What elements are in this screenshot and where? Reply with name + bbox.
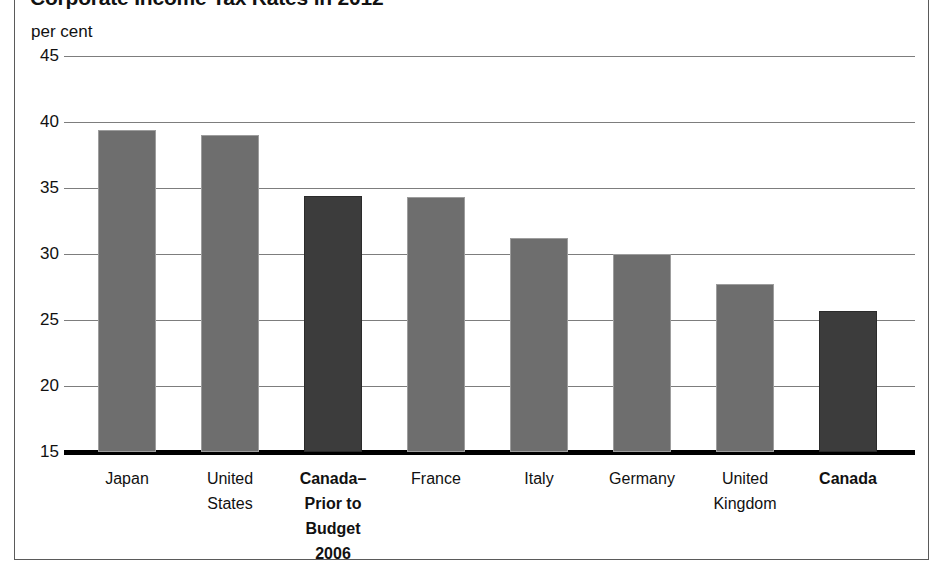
x-axis-tick-line: Canada bbox=[793, 466, 903, 491]
x-axis-tick-label: Germany bbox=[587, 466, 697, 491]
gridline-40 bbox=[64, 122, 915, 123]
y-axis-tick-label: 15 bbox=[31, 442, 59, 462]
bar bbox=[819, 311, 877, 452]
x-axis-tick-line: United bbox=[175, 466, 285, 491]
x-axis-tick-line: Kingdom bbox=[690, 491, 800, 516]
chart-figure: Corporate Income Tax Rates in 2012 per c… bbox=[0, 0, 942, 566]
y-axis-tick-label: 20 bbox=[31, 376, 59, 396]
x-axis-tick-line: Japan bbox=[72, 466, 182, 491]
plot-area: 45403530252015JapanUnitedStatesCanada–Pr… bbox=[0, 0, 942, 566]
x-axis-tick-line: Canada– bbox=[278, 466, 388, 491]
y-axis-tick-label: 45 bbox=[31, 46, 59, 66]
x-axis-tick-label: UnitedStates bbox=[175, 466, 285, 516]
x-axis-tick-line: United bbox=[690, 466, 800, 491]
bar bbox=[510, 238, 568, 452]
gridline-20 bbox=[64, 386, 915, 387]
x-axis-tick-line: Germany bbox=[587, 466, 697, 491]
bar bbox=[304, 196, 362, 452]
y-axis-tick-label: 25 bbox=[31, 310, 59, 330]
x-axis-tick-label: UnitedKingdom bbox=[690, 466, 800, 516]
y-axis-tick-label: 40 bbox=[31, 112, 59, 132]
x-axis-tick-label: Canada bbox=[793, 466, 903, 491]
x-axis-tick-line: States bbox=[175, 491, 285, 516]
x-axis-line bbox=[64, 450, 915, 455]
bar bbox=[716, 284, 774, 452]
x-axis-tick-label: France bbox=[381, 466, 491, 491]
x-axis-tick-label: Canada–Prior toBudget2006 bbox=[278, 466, 388, 566]
x-axis-tick-line: Prior to bbox=[278, 491, 388, 516]
x-axis-tick-line: Italy bbox=[484, 466, 594, 491]
x-axis-tick-line: 2006 bbox=[278, 541, 388, 566]
x-axis-tick-label: Italy bbox=[484, 466, 594, 491]
y-axis-tick-label: 35 bbox=[31, 178, 59, 198]
x-axis-tick-label: Japan bbox=[72, 466, 182, 491]
y-axis-tick-label: 30 bbox=[31, 244, 59, 264]
x-axis-tick-line: France bbox=[381, 466, 491, 491]
x-axis-tick-line: Budget bbox=[278, 516, 388, 541]
bar bbox=[201, 135, 259, 452]
gridline-45 bbox=[64, 56, 915, 57]
gridline-25 bbox=[64, 320, 915, 321]
bar bbox=[407, 197, 465, 452]
gridline-30 bbox=[64, 254, 915, 255]
gridline-35 bbox=[64, 188, 915, 189]
bar bbox=[98, 130, 156, 452]
bar bbox=[613, 254, 671, 452]
